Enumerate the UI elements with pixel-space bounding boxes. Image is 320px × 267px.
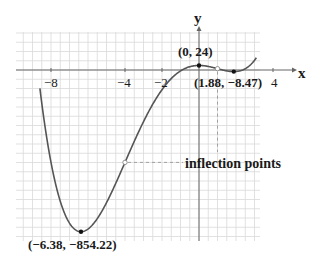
x-tick-label: −2	[154, 75, 168, 90]
inflection-annotation: inflection points	[185, 156, 282, 171]
x-tick-label: −4	[117, 75, 131, 90]
x-axis-label: x	[298, 65, 306, 81]
x-tick-label: −8	[44, 75, 58, 90]
y-axis-arrow	[197, 26, 202, 31]
x-axis-arrow	[292, 68, 297, 73]
point-marker	[232, 69, 236, 73]
y-axis-label: y	[194, 10, 202, 26]
x-tick-label: 4	[271, 75, 278, 90]
point-marker	[79, 230, 83, 234]
inflection-marker	[215, 66, 219, 70]
point-label-local-min: (1.88, −8.47)	[194, 75, 262, 90]
point-marker	[197, 63, 201, 67]
grid	[16, 32, 260, 241]
point-label-global-min: (−6.38, −854.22)	[28, 237, 116, 252]
chart: x y −8 −4 −2 4 (0, 24) (1.88, −8.47) (−6…	[0, 0, 320, 267]
point-label-local-max: (0, 24)	[178, 44, 213, 59]
inflection-marker	[123, 160, 127, 164]
